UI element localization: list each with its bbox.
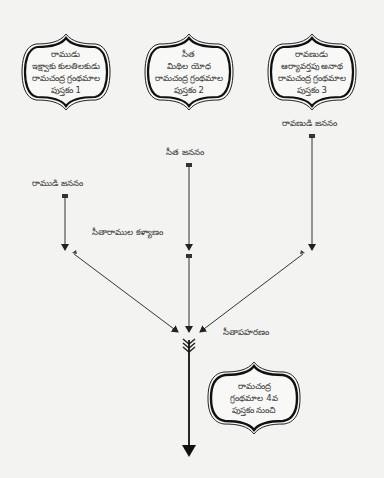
label-rama-birth: రాముడి జననం xyxy=(32,178,83,190)
rama-converge-line xyxy=(74,254,178,332)
box-line: మిథిల యోధ xyxy=(155,60,224,72)
box-line: ఆర్యావర్తపు అనాథ xyxy=(278,60,347,72)
ravana-converge-line xyxy=(200,254,303,332)
box-line: పుస్తకం 1 xyxy=(32,84,101,96)
label-abduction: సీతాపహరణం xyxy=(223,327,269,339)
source-box-rama: రాముడు ఇక్ష్వాకు కులతిలకుడు రామచంద్ర గ్ర… xyxy=(20,32,112,112)
source-box-ravana: రావణుడు ఆర్యావర్తపు అనాథ రామచంద్ర గ్రంథమ… xyxy=(266,32,358,112)
target-box-book-4: రామచంద్ర గ్రంథమాల 4వ పుస్తకం నుంచి xyxy=(206,360,302,436)
box-line: రామచంద్ర xyxy=(230,380,277,392)
diagram-canvas: రాముడు ఇక్ష్వాకు కులతిలకుడు రామచంద్ర గ్ర… xyxy=(0,0,384,478)
box-line: సీత xyxy=(155,48,224,60)
label-ravana-birth: రావణుడి జననం xyxy=(282,118,337,130)
box-line: రావణుడు xyxy=(278,48,347,60)
box-line: పుస్తకం 3 xyxy=(278,84,347,96)
box-line: రామచంద్ర గ్రంథమాల xyxy=(155,72,224,84)
box-line: రామచంద్ర గ్రంథమాల xyxy=(32,72,101,84)
label-sita-birth: సీత జననం xyxy=(166,147,204,159)
label-wedding: సీతారాముల కళ్యాణం xyxy=(92,227,163,239)
box-line: పుస్తకం నుంచి xyxy=(230,404,277,416)
box-line: రాముడు xyxy=(32,48,101,60)
box-line: పుస్తకం 2 xyxy=(155,84,224,96)
box-line: రామచంద్ర గ్రంథమాల xyxy=(278,72,347,84)
box-line: గ్రంథమాల 4వ xyxy=(230,392,277,404)
box-line: ఇక్ష్వాకు కులతిలకుడు xyxy=(32,60,101,72)
source-box-sita: సీత మిథిల యోధ రామచంద్ర గ్రంథమాల పుస్తకం … xyxy=(143,32,235,112)
